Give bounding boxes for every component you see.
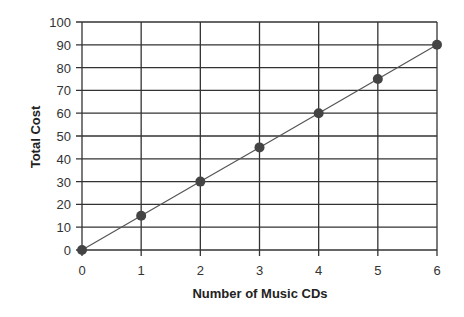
y-tick-label: 20 — [57, 197, 71, 212]
grid — [76, 22, 437, 256]
y-tick-label: 30 — [57, 175, 71, 190]
y-tick-label: 90 — [57, 38, 71, 53]
x-tick-label: 6 — [433, 263, 440, 278]
x-axis-label: Number of Music CDs — [192, 286, 327, 301]
x-tick-label: 2 — [197, 263, 204, 278]
y-tick-label: 50 — [57, 129, 71, 144]
x-tick-label: 5 — [374, 263, 381, 278]
x-tick-label: 0 — [78, 263, 85, 278]
line-chart: 0102030405060708090100 0123456 Number of… — [0, 0, 464, 317]
y-tick-label: 70 — [57, 83, 71, 98]
data-point-marker — [136, 211, 146, 221]
y-tick-label: 80 — [57, 61, 71, 76]
data-point-marker — [195, 177, 205, 187]
y-tick-label: 40 — [57, 152, 71, 167]
data-point-marker — [255, 142, 265, 152]
x-tick-label: 1 — [138, 263, 145, 278]
data-point-marker — [314, 108, 324, 118]
y-axis-label: Total Cost — [28, 105, 43, 168]
data-point-marker — [432, 40, 442, 50]
y-tick-label: 100 — [49, 15, 71, 30]
y-axis-ticks: 0102030405060708090100 — [49, 15, 71, 258]
data-point-marker — [373, 74, 383, 84]
y-tick-label: 0 — [64, 243, 71, 258]
y-tick-label: 10 — [57, 220, 71, 235]
x-tick-label: 4 — [315, 263, 322, 278]
x-tick-label: 3 — [256, 263, 263, 278]
y-tick-label: 60 — [57, 106, 71, 121]
x-axis-ticks: 0123456 — [78, 263, 440, 278]
data-point-marker — [77, 245, 87, 255]
